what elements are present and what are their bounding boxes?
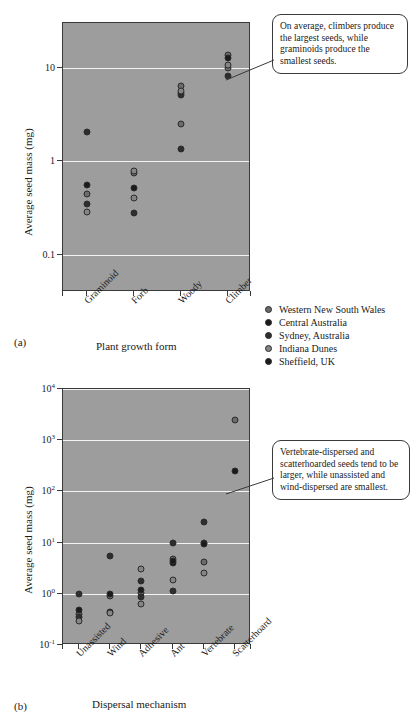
x-axis-title-a: Plant growth form <box>96 340 177 352</box>
callout-a: On average, climbers produce the largest… <box>272 14 408 74</box>
legend-marker-icon <box>265 319 272 326</box>
legend-marker-icon <box>265 345 272 352</box>
legend-marker-icon <box>265 332 272 339</box>
plot-canvas-b <box>62 388 250 644</box>
data-point <box>130 209 137 216</box>
y-axis-title-a: Average seed mass (mg) <box>22 128 34 236</box>
plot-canvas-a <box>62 22 250 291</box>
data-point <box>169 577 176 584</box>
callout-b: Vertebrate-dispersed and scatterhoarded … <box>272 440 410 500</box>
callout-leader-b <box>226 474 276 496</box>
legend-item: Central Australia <box>265 316 385 329</box>
data-point <box>107 553 114 560</box>
callout-leader-a <box>226 58 276 82</box>
legend-label: Western New South Wales <box>279 304 385 315</box>
gridline <box>63 161 249 162</box>
y-axis-tick-label: 10 <box>45 61 55 72</box>
data-point <box>138 600 145 607</box>
y-axis-tick-label: 0.1 <box>43 248 56 259</box>
y-axis-tick-label: 102 <box>42 484 56 496</box>
data-point <box>201 519 208 526</box>
y-axis-tick-label: 103 <box>42 433 56 445</box>
data-point <box>177 121 184 128</box>
data-point <box>130 184 137 191</box>
legend-label: Central Australia <box>279 317 347 328</box>
y-axis-tick-label: 1 <box>50 155 55 166</box>
y-axis-tick-label: 100 <box>42 587 56 599</box>
legend-label: Sydney, Australia <box>279 330 349 341</box>
y-axis-tick <box>57 67 62 68</box>
data-point <box>138 577 145 584</box>
data-point <box>83 208 90 215</box>
x-axis-end-tick <box>250 291 251 296</box>
panel-label-b: (b) <box>14 700 27 712</box>
data-point <box>232 416 239 423</box>
y-axis-tick <box>57 593 62 594</box>
y-axis-title-b: Average seed mass (mg) <box>22 486 34 594</box>
gridline <box>63 389 249 390</box>
y-axis-tick <box>57 388 62 389</box>
data-point <box>75 590 82 597</box>
data-point <box>138 593 145 600</box>
data-point <box>130 168 137 175</box>
data-point <box>83 200 90 207</box>
legend-label: Indiana Dunes <box>279 343 337 354</box>
legend: Western New South WalesCentral Australia… <box>265 303 385 368</box>
data-point <box>201 570 208 577</box>
data-point <box>107 609 114 616</box>
gridline <box>63 594 249 595</box>
x-axis-title-b: Dispersal mechanism <box>92 698 186 710</box>
gridline <box>63 491 249 492</box>
data-point <box>201 559 208 566</box>
x-axis-end-tick <box>250 644 251 649</box>
gridline <box>63 68 249 69</box>
y-axis-tick <box>57 542 62 543</box>
legend-item: Indiana Dunes <box>265 342 385 355</box>
data-point <box>169 587 176 594</box>
gridline <box>63 255 249 256</box>
data-point <box>138 566 145 573</box>
legend-item: Sydney, Australia <box>265 329 385 342</box>
data-point <box>169 557 176 564</box>
y-axis-tick <box>57 160 62 161</box>
plot-area-b: 10-1100101102103104UnassistedWindAdhesiv… <box>62 388 250 644</box>
y-axis-tick-label: 10-1 <box>39 638 55 650</box>
panel-b: 10-1100101102103104UnassistedWindAdhesiv… <box>0 362 419 724</box>
y-axis-tick <box>57 490 62 491</box>
data-point <box>201 540 208 547</box>
data-point <box>75 617 82 624</box>
data-point <box>107 591 114 598</box>
y-axis-tick <box>57 439 62 440</box>
y-axis-tick <box>57 254 62 255</box>
data-point <box>177 87 184 94</box>
data-point <box>83 181 90 188</box>
y-axis-tick-label: 101 <box>42 535 56 547</box>
x-axis-end-tick <box>62 291 63 296</box>
panel-label-a: (a) <box>14 336 26 348</box>
data-point <box>130 195 137 202</box>
gridline <box>63 543 249 544</box>
plot-area-a: 0.1110GraminoidForbWoodyClimber <box>62 22 250 291</box>
legend-marker-icon <box>265 306 272 313</box>
gridline <box>63 440 249 441</box>
legend-item: Western New South Wales <box>265 303 385 316</box>
y-axis-tick-label: 104 <box>42 382 56 394</box>
data-point <box>83 129 90 136</box>
data-point <box>83 190 90 197</box>
data-point <box>169 539 176 546</box>
data-point <box>177 146 184 153</box>
x-axis-end-tick <box>62 644 63 649</box>
